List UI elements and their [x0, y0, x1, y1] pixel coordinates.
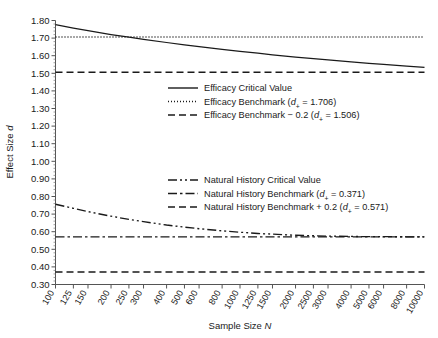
- y-tick-label: 0.80: [31, 191, 50, 202]
- y-tick-label: 1.60: [31, 50, 50, 61]
- y-tick-label: 1.40: [31, 85, 50, 96]
- line-chart: 0.300.400.500.600.700.800.901.001.101.20…: [0, 0, 438, 338]
- y-tick-label: 1.70: [31, 32, 50, 43]
- y-tick-label: 1.80: [31, 15, 50, 26]
- y-axis-title: Effect Size d: [4, 125, 15, 179]
- x-axis-ticks: [56, 285, 425, 289]
- chart-figure: 0.300.400.500.600.700.800.901.001.101.20…: [0, 0, 438, 338]
- y-tick-label: 0.40: [31, 261, 50, 272]
- y-tick-label: 0.50: [31, 244, 50, 255]
- legend-label: Natural History Critical Value: [204, 175, 321, 185]
- legend-label: Efficacy Critical Value: [204, 83, 292, 93]
- y-tick-label: 1.50: [31, 68, 50, 79]
- y-tick-label: 0.70: [31, 208, 50, 219]
- y-tick-label: 1.30: [31, 103, 50, 114]
- y-tick-label: 1.20: [31, 120, 50, 131]
- y-tick-label: 1.00: [31, 156, 50, 167]
- y-tick-label: 0.60: [31, 226, 50, 237]
- x-axis-title: Sample Size N: [209, 320, 272, 331]
- y-tick-label: 0.90: [31, 173, 50, 184]
- y-tick-label: 1.10: [31, 138, 50, 149]
- chart-background: [0, 0, 438, 338]
